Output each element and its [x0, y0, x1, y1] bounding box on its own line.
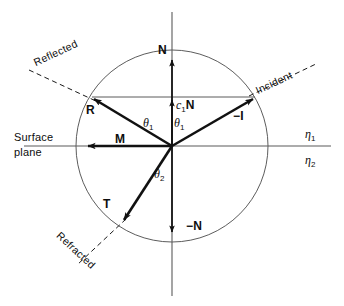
label-angle-theta2: θ2: [154, 168, 164, 184]
label-angle-theta1-right: θ1: [174, 117, 184, 133]
label-angle-theta1-left: θ1: [143, 117, 153, 133]
label-normal-N: N: [158, 44, 167, 57]
surface-plane-line1: Surface: [14, 130, 53, 145]
theta2-sub: 2: [160, 174, 164, 183]
eta1-sub: 1: [311, 134, 315, 143]
label-surface-plane: Surface plane: [14, 130, 53, 160]
label-eta2: η2: [305, 154, 315, 170]
label-eta1: η1: [305, 128, 315, 144]
c1N-N-glyph: N: [186, 98, 195, 112]
label-vector-c1N: c1N: [176, 99, 194, 115]
reflected-ray-dashed: [29, 70, 98, 102]
label-vector-R: R: [86, 104, 95, 117]
theta1-right-sub: 1: [180, 123, 184, 132]
label-vector-M: M: [115, 133, 125, 146]
eta2-sub: 2: [311, 160, 315, 169]
label-vector-T: T: [103, 198, 111, 211]
theta1-left-sub: 1: [149, 123, 153, 132]
optics-vector-diagram: N −N R −I T M c1N θ1 θ1 θ2 η1 η2 Surface…: [0, 0, 344, 306]
vector-T: [124, 146, 172, 220]
surface-plane-line2: plane: [14, 145, 53, 160]
vector-R: [94, 99, 172, 146]
label-normal-neg-N: −N: [186, 220, 202, 233]
label-vector-neg-I: −I: [233, 110, 244, 123]
